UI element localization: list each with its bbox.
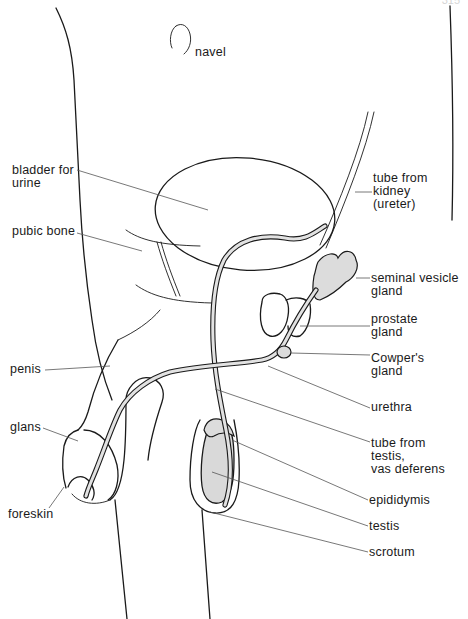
- navel-icon: [170, 24, 190, 54]
- label-scrotum: scrotum: [369, 546, 415, 559]
- label-navel: navel: [195, 46, 226, 59]
- leader-penis: [45, 366, 110, 370]
- body-outline-left: [56, 8, 112, 400]
- leader-urethra: [268, 366, 370, 408]
- label-bladder: bladder for urine: [12, 164, 74, 190]
- leader-pubic-bone: [77, 233, 142, 251]
- cowpers-gland-shape: [277, 346, 291, 358]
- label-urethra: urethra: [371, 401, 412, 414]
- label-vas-deferens: tube from testis, vas deferens: [371, 437, 445, 476]
- label-glans: glans: [10, 421, 41, 434]
- label-prostate: prostate gland: [371, 313, 418, 339]
- leader-epididymis: [232, 440, 368, 500]
- label-testis: testis: [369, 520, 399, 533]
- label-seminal-vesicle: seminal vesicle gland: [371, 272, 459, 298]
- thigh-line-left: [115, 500, 127, 619]
- bladder-shape: [150, 150, 339, 277]
- label-pubic-bone: pubic bone: [12, 225, 75, 238]
- leader-vas-deferens: [215, 389, 370, 442]
- leader-cowpers: [291, 353, 370, 355]
- label-epididymis: epididymis: [369, 494, 430, 507]
- leader-glans: [43, 428, 78, 441]
- label-foreskin: foreskin: [8, 508, 53, 521]
- thigh-line-right: [202, 510, 210, 619]
- foreskin-shape: [72, 494, 110, 503]
- label-ureter: tube from kidney (ureter): [373, 172, 428, 211]
- leader-bladder: [77, 170, 208, 210]
- leader-foreskin: [49, 487, 64, 508]
- body-outline-right: [450, 6, 453, 220]
- groin-contour: [118, 310, 160, 340]
- label-cowpers: Cowper's gland: [371, 352, 424, 378]
- seminal-vesicle-gland-shape: [313, 251, 357, 300]
- prostate-gland-shape: [260, 293, 288, 336]
- epididymis-shape: [204, 419, 234, 437]
- label-penis: penis: [10, 363, 41, 376]
